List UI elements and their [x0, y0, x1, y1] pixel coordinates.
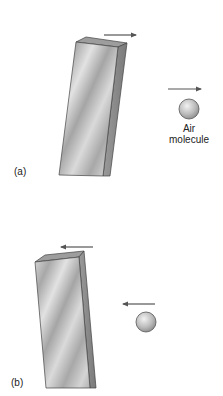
molecule-label-line1: Air: [164, 123, 214, 134]
panel-label-a: (a): [14, 166, 26, 177]
air-molecule-sphere: [136, 312, 156, 332]
panel-label-b: (b): [11, 377, 23, 388]
panel-a: [59, 35, 201, 176]
vibrating-slab-a: [59, 37, 127, 176]
air-molecule-label: Air molecule: [164, 123, 214, 145]
figure-canvas: [0, 0, 223, 396]
air-molecule-sphere: [179, 99, 199, 119]
panel-b: [35, 247, 156, 388]
vibrating-slab-b: [35, 251, 96, 388]
molecule-label-line2: molecule: [164, 134, 214, 145]
